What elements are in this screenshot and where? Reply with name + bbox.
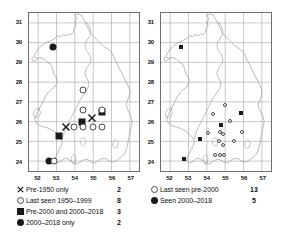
left-xtick-54: 54 <box>68 175 82 181</box>
right-xtick-57: 57 <box>256 175 270 181</box>
data-point-cross <box>88 114 97 123</box>
data-point-open-circle <box>211 112 215 116</box>
left-ytick-27: 27 <box>8 99 22 105</box>
filled-square-icon <box>14 208 26 215</box>
right-ytick-24: 24 <box>140 159 154 165</box>
legend-row: Seen 2000–2018 5 <box>148 195 262 206</box>
data-point-open-circle <box>240 130 244 134</box>
data-point-open-circle <box>98 124 105 131</box>
data-point-open-circle <box>222 153 226 157</box>
figure-root: 31 30 29 28 27 26 25 24 52 53 54 55 56 5… <box>0 0 287 238</box>
data-point-open-circle <box>98 106 105 113</box>
data-point-cross <box>62 123 71 132</box>
legend-row: 2000–2018 only 2 <box>14 217 126 228</box>
data-point-filled-square <box>219 123 223 127</box>
data-point-filled-square <box>182 157 186 161</box>
left-ytick-30: 30 <box>8 39 22 45</box>
filled-circle-icon <box>148 197 160 204</box>
data-point-open-circle <box>232 139 236 143</box>
legend-count: 2 <box>112 186 126 194</box>
data-point-open-circle <box>80 124 87 131</box>
legend-row: Pre-1950 only 2 <box>14 184 126 195</box>
legend-row: Last seen 1950–1999 8 <box>14 195 126 206</box>
left-ytick-24: 24 <box>8 159 22 165</box>
left-xtick-56: 56 <box>105 175 119 181</box>
legend-label: Pre-2000 and 2000–2018 <box>26 208 112 216</box>
data-point-open-circle <box>228 119 232 123</box>
right-ytick-26: 26 <box>140 119 154 125</box>
right-xtick-54: 54 <box>200 175 214 181</box>
data-point-open-circle <box>80 86 87 93</box>
right-xtick-55: 55 <box>218 175 232 181</box>
data-point-filled-square <box>239 111 243 115</box>
legend-count: 5 <box>246 197 262 205</box>
legend-count: 2 <box>112 219 126 227</box>
open-circle-icon <box>148 186 160 193</box>
legend-label: Seen 2000–2018 <box>160 197 246 205</box>
data-point-open-circle <box>51 157 58 164</box>
right-ytick-25: 25 <box>140 139 154 145</box>
right-ytick-29: 29 <box>140 59 154 65</box>
data-point-open-circle <box>206 131 210 135</box>
right-xtick-53: 53 <box>181 175 195 181</box>
right-xtick-56: 56 <box>237 175 251 181</box>
data-point-filled-square <box>198 137 202 141</box>
data-point-open-circle <box>71 124 78 131</box>
data-point-filled-square <box>179 45 183 49</box>
legend-label: 2000–2018 only <box>26 219 112 227</box>
left-ytick-25: 25 <box>8 139 22 145</box>
left-xtick-53: 53 <box>49 175 63 181</box>
left-xtick-55: 55 <box>86 175 100 181</box>
legend-label: Last seen pre-2000 <box>160 186 246 194</box>
right-map <box>160 12 272 172</box>
legend-label: Pre-1950 only <box>26 186 112 194</box>
left-ytick-26: 26 <box>8 119 22 125</box>
data-point-open-circle <box>213 153 217 157</box>
legend-count: 8 <box>112 197 126 205</box>
right-ytick-31: 31 <box>140 19 154 25</box>
right-ytick-30: 30 <box>140 39 154 45</box>
legend-row: Last seen pre-2000 13 <box>148 184 262 195</box>
left-xtick-52: 52 <box>30 175 44 181</box>
data-point-open-circle <box>223 103 227 107</box>
right-ytick-27: 27 <box>140 99 154 105</box>
left-legend: Pre-1950 only 2 Last seen 1950–1999 8 Pr… <box>14 184 126 228</box>
data-point-open-circle <box>80 106 87 113</box>
legend-row: Pre-2000 and 2000–2018 3 <box>14 206 126 217</box>
left-ytick-31: 31 <box>8 19 22 25</box>
left-panel: 31 30 29 28 27 26 25 24 52 53 54 55 56 5… <box>0 0 143 238</box>
right-panel: 31 30 29 28 27 26 25 24 52 53 54 55 56 5… <box>144 0 287 238</box>
legend-label: Last seen 1950–1999 <box>26 197 112 205</box>
cross-icon <box>14 186 26 193</box>
left-ytick-29: 29 <box>8 59 22 65</box>
legend-count: 3 <box>112 208 126 216</box>
data-point-filled-square <box>56 133 63 140</box>
right-map-coastline <box>161 13 271 171</box>
filled-circle-icon <box>14 219 26 226</box>
legend-count: 13 <box>246 186 262 194</box>
data-point-open-circle <box>217 139 221 143</box>
open-circle-icon <box>14 197 26 204</box>
right-xtick-52: 52 <box>162 175 176 181</box>
left-ytick-28: 28 <box>8 79 22 85</box>
left-xtick-57: 57 <box>124 175 138 181</box>
right-legend: Last seen pre-2000 13 Seen 2000–2018 5 <box>148 184 262 206</box>
data-point-open-circle <box>89 124 96 131</box>
data-point-open-circle <box>221 143 225 147</box>
data-point-open-circle <box>221 132 225 136</box>
right-ytick-28: 28 <box>140 79 154 85</box>
data-point-filled-circle <box>50 43 57 50</box>
